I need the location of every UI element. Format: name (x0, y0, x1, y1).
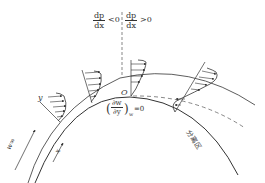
dpdx-left-num: dp (93, 11, 105, 21)
dpdx-right: dp dx (125, 11, 137, 30)
wall-condition-num: ∂w (111, 99, 123, 108)
boundary-layer-diagram: dp dx <0 dp dx >0 O ( ∂w ∂y ) w =0 y x w… (0, 0, 265, 183)
wall-condition-subscript: w (129, 111, 133, 117)
velocity-profile-3 (131, 60, 146, 96)
dpdx-left: dp dx (93, 11, 105, 30)
dpdx-right-relation: >0 (140, 15, 152, 24)
separation-streamline (133, 96, 245, 128)
boundary-layer-edge (28, 74, 255, 183)
wall-condition-den: ∂y (111, 108, 123, 116)
wall-condition-relation: =0 (134, 105, 144, 113)
freestream-arrow (15, 130, 35, 170)
wall-condition-paren-open: ( (106, 102, 111, 116)
velocity-profile-2 (82, 70, 101, 103)
dpdx-left-relation: <0 (108, 15, 120, 24)
dpdx-right-num: dp (125, 11, 137, 21)
wall-condition-fraction: ∂w ∂y (111, 99, 123, 116)
dpdx-right-den: dx (125, 21, 137, 30)
wall-condition-paren-close: ) (124, 102, 129, 116)
velocity-profile-4 (173, 62, 217, 112)
velocity-profile-1 (40, 93, 66, 122)
y-axis-label: y (38, 93, 43, 102)
separation-point-label: O (121, 88, 128, 97)
dpdx-left-den: dx (93, 21, 105, 30)
